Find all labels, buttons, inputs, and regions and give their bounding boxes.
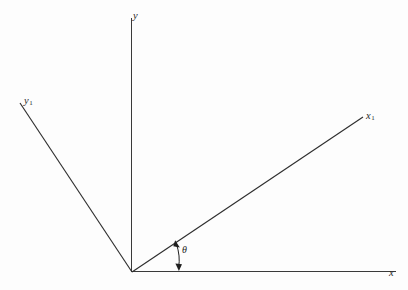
x-axis-label: x <box>389 268 394 279</box>
theta-arrow-head-lower <box>175 264 182 271</box>
x1-axis-line <box>132 117 363 272</box>
y-axis-label: y <box>133 11 138 22</box>
x1-label-subscript: 1 <box>371 114 375 122</box>
x1-label-base: x <box>366 110 371 121</box>
x1-axis-label: x1 <box>366 111 375 122</box>
diagram-svg <box>0 0 408 290</box>
theta-arrow-head-upper <box>173 240 180 247</box>
figure-canvas: y x x1 y1 θ <box>0 0 408 290</box>
y1-axis-label: y1 <box>24 96 33 107</box>
y1-label-base: y <box>24 95 29 106</box>
theta-angle-label: θ <box>182 245 187 255</box>
y1-axis-line <box>20 103 132 272</box>
y1-label-subscript: 1 <box>29 99 33 107</box>
